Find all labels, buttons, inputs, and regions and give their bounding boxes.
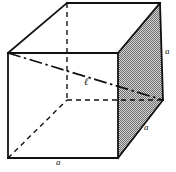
label-diagonal: ℓ [84,77,88,86]
cube-svg [0,0,176,172]
label-edge-side: a [144,123,149,132]
hidden-edge-bottom-left-depth [8,100,67,158]
label-edge-bottom: a [56,158,61,167]
edge-top-left-depth [8,3,67,53]
cube-diagram: a a a ℓ [0,0,176,172]
label-edge-right: a [165,47,170,56]
